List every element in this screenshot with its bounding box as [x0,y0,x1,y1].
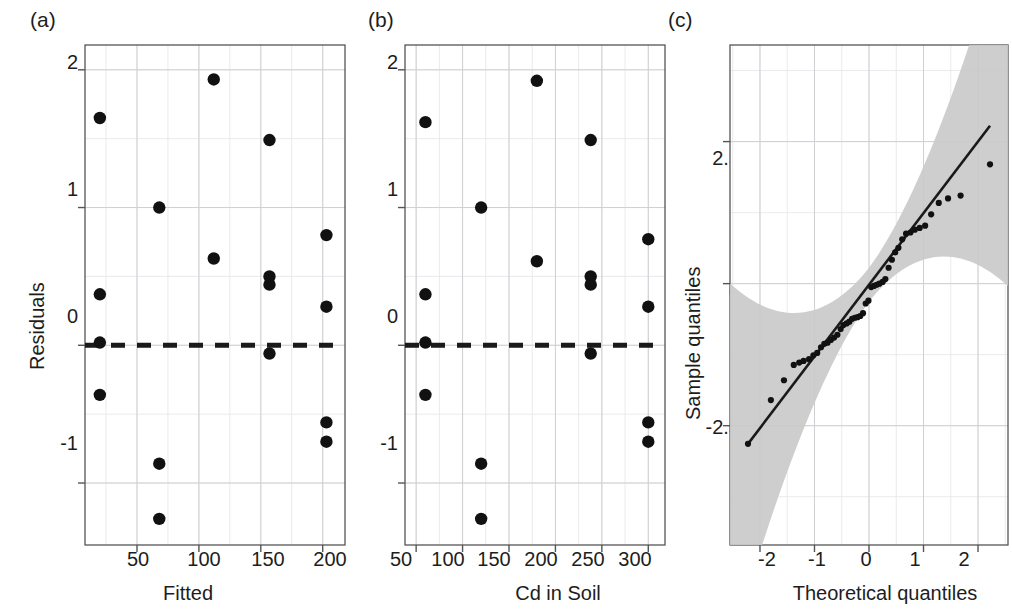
panel-b-plot-area [405,45,665,545]
panel-a-xtick-150: 150 [239,548,297,571]
panel-a-xtick-50: 50 [113,548,163,571]
panel-a-ytick-0: 0 [48,305,78,328]
panel-a: (a) Residuals Fitted 2 1 0 -1 50 100 150… [0,0,340,616]
panel-c-plot-area [730,45,1008,545]
panel-b-ytick-neg1: -1 [358,432,398,455]
panel-c-xtick-2: 2 [939,548,989,571]
panel-b-ytick-0: 0 [368,305,398,328]
panel-c-x-axis-title: Theoretical quantiles [785,582,985,605]
panel-a-tag: (a) [30,8,56,32]
figure-three-panel-diagnostics: (a) Residuals Fitted 2 1 0 -1 50 100 150… [0,0,1012,616]
panel-a-xtick-100: 100 [175,548,233,571]
panel-a-x-axis-title: Fitted [128,582,248,605]
panel-b-ytick-1: 1 [368,178,398,201]
panel-c-tag: (c) [668,8,693,32]
panel-b-ytick-2: 2 [368,51,398,74]
panel-a-ytick-1: 1 [48,178,78,201]
panel-c-xtick-neg1: -1 [792,548,842,571]
panel-a-plot-area [85,45,345,545]
panel-a-ytick-2: 2 [48,51,78,74]
panel-c-xtick-0: 0 [841,548,891,571]
panel-c-xtick-1: 1 [890,548,940,571]
panel-a-ytick-neg1: -1 [38,432,78,455]
panel-a-y-axis-title: Residuals [26,282,49,370]
panel-c: (c) Sample quantiles Theoretical quantil… [660,0,1012,616]
panel-b: (b) Cd in Soil 2 1 0 -1 50 100 150 200 2… [330,0,670,616]
panel-b-x-axis-title: Cd in Soil [478,582,638,605]
panel-c-xtick-neg2: -2 [742,548,792,571]
panel-b-xtick-300: 300 [606,548,664,571]
panel-b-tag: (b) [368,8,394,32]
